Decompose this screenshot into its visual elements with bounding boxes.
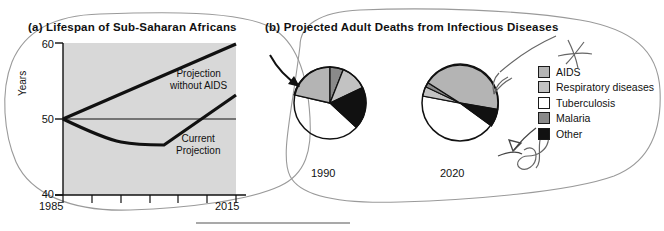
y-tick-label-50: 50 [28,113,54,125]
pie-2020-slice-aids [428,64,499,109]
legend-label-malaria: Malaria [556,112,590,124]
annotation-current-line1: Current [176,133,220,145]
y-axis-label: Years [17,71,28,96]
legend-swatch-tuberculosis [538,97,550,109]
legend-item-other: Other [538,126,654,142]
legend-swatch-other [538,128,550,140]
legend-label-other: Other [556,128,582,140]
x-tick-label-2015: 2015 [215,200,239,212]
pie-label-2020: 2020 [440,167,464,179]
legend-swatch-aids [538,66,550,78]
y-tick-label-40: 40 [28,188,54,200]
legend-label-tuberculosis: Tuberculosis [556,97,615,109]
pie-chart-1990 [294,67,366,139]
annotation-projection-line2: without AIDS [170,80,227,92]
panel-a-title: (a) Lifespan of Sub-Saharan Africans [28,21,237,33]
annotation-projection-line1: Projection [170,68,227,80]
figure-container: (a) Lifespan of Sub-Saharan Africans Yea… [0,0,664,231]
annotation-current-line2: Projection [176,145,220,157]
callout-arrow-1990-aids [270,55,300,87]
legend-item-tuberculosis: Tuberculosis [538,95,654,111]
y-tick-label-60: 60 [28,38,54,50]
annotation-current-projection: Current Projection [176,133,220,157]
legend-item-malaria: Malaria [538,111,654,127]
pie-chart-2020 [422,64,498,141]
legend-swatch-respiratory-diseases [538,81,550,93]
panel-b-title: (b) Projected Adult Deaths from Infectio… [265,21,559,33]
legend-item-aids: AIDS [538,64,654,80]
pie-label-1990: 1990 [311,167,335,179]
annotation-projection-without-aids: Projection without AIDS [170,68,227,92]
legend-label-aids: AIDS [556,66,581,78]
legend-swatch-malaria [538,112,550,124]
x-tick-label-1985: 1985 [39,200,63,212]
legend-item-respiratory-diseases: Respiratory diseases [538,80,654,96]
legend-label-respiratory-diseases: Respiratory diseases [556,81,654,93]
legend: AIDS Respiratory diseases Tuberculosis M… [538,64,654,142]
